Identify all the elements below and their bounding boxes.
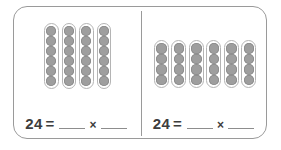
bead-dot bbox=[99, 36, 109, 46]
left-equation: 24 = × bbox=[14, 115, 141, 132]
right-total-value: 24 bbox=[153, 115, 170, 132]
right-equals-sign: = bbox=[173, 115, 182, 132]
bead-rod bbox=[189, 40, 204, 88]
worksheet-card: 24 = × 24 = × bbox=[13, 6, 267, 139]
bead-dot bbox=[81, 46, 91, 56]
bead-rod bbox=[62, 23, 77, 89]
bead-dot bbox=[209, 43, 220, 54]
bead-dot bbox=[64, 66, 74, 76]
bead-rod bbox=[44, 23, 59, 89]
left-first-blank[interactable] bbox=[59, 115, 85, 129]
bead-dot bbox=[174, 75, 185, 86]
bead-dot bbox=[64, 26, 74, 36]
right-bead-array bbox=[142, 40, 268, 88]
bead-dot bbox=[64, 76, 74, 86]
bead-dot bbox=[244, 54, 255, 65]
bead-dot bbox=[81, 66, 91, 76]
bead-dot bbox=[99, 26, 109, 36]
bead-dot bbox=[174, 64, 185, 75]
bead-dot bbox=[226, 43, 237, 54]
right-multiplication-sign: × bbox=[217, 118, 224, 132]
bead-dot bbox=[81, 56, 91, 66]
bead-dot bbox=[244, 75, 255, 86]
left-second-blank[interactable] bbox=[101, 115, 127, 129]
left-multiplication-sign: × bbox=[89, 118, 96, 132]
bead-dot bbox=[156, 43, 167, 54]
left-bead-array bbox=[14, 23, 141, 89]
bead-rod bbox=[79, 23, 94, 89]
bead-dot bbox=[46, 46, 56, 56]
bead-dot bbox=[81, 26, 91, 36]
bead-dot bbox=[64, 36, 74, 46]
bead-dot bbox=[226, 54, 237, 65]
bead-dot bbox=[46, 36, 56, 46]
left-equals-sign: = bbox=[45, 115, 54, 132]
left-total-value: 24 bbox=[25, 115, 42, 132]
bead-dot bbox=[191, 43, 202, 54]
bead-rod bbox=[241, 40, 256, 88]
bead-dot bbox=[209, 64, 220, 75]
bead-dot bbox=[244, 43, 255, 54]
bead-dot bbox=[156, 64, 167, 75]
bead-rod bbox=[206, 40, 221, 88]
bead-rod bbox=[171, 40, 186, 88]
right-equation: 24 = × bbox=[142, 115, 268, 132]
bead-rod bbox=[97, 23, 112, 89]
bead-dot bbox=[99, 76, 109, 86]
bead-dot bbox=[191, 54, 202, 65]
bead-dot bbox=[156, 54, 167, 65]
bead-dot bbox=[191, 75, 202, 86]
bead-dot bbox=[191, 64, 202, 75]
bead-dot bbox=[46, 66, 56, 76]
right-second-blank[interactable] bbox=[228, 115, 254, 129]
bead-dot bbox=[46, 56, 56, 66]
left-panel: 24 = × bbox=[14, 7, 141, 140]
bead-dot bbox=[46, 26, 56, 36]
bead-dot bbox=[209, 75, 220, 86]
bead-rod bbox=[154, 40, 169, 88]
right-first-blank[interactable] bbox=[187, 115, 213, 129]
bead-dot bbox=[226, 64, 237, 75]
bead-dot bbox=[46, 76, 56, 86]
bead-rod bbox=[224, 40, 239, 88]
bead-dot bbox=[81, 76, 91, 86]
bead-dot bbox=[64, 56, 74, 66]
bead-dot bbox=[174, 54, 185, 65]
bead-dot bbox=[99, 46, 109, 56]
bead-dot bbox=[81, 36, 91, 46]
bead-dot bbox=[226, 75, 237, 86]
bead-dot bbox=[156, 75, 167, 86]
bead-dot bbox=[209, 54, 220, 65]
bead-dot bbox=[244, 64, 255, 75]
bead-dot bbox=[99, 56, 109, 66]
bead-dot bbox=[64, 46, 74, 56]
bead-dot bbox=[99, 66, 109, 76]
bead-dot bbox=[174, 43, 185, 54]
right-panel: 24 = × bbox=[142, 7, 268, 140]
